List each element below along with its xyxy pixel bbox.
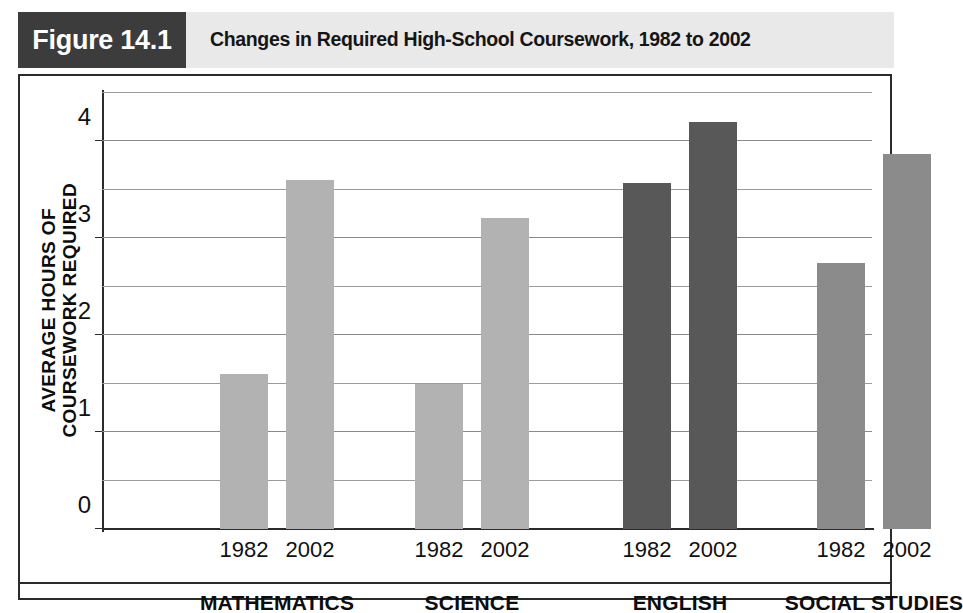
figure-title-box: Changes in Required High-School Coursewo…	[186, 12, 894, 68]
y-tick-label-2: 2	[78, 299, 91, 323]
year-label-mathematics-2002: 2002	[286, 539, 335, 561]
year-label-science-1982: 1982	[415, 539, 464, 561]
bar-mathematics-1982	[220, 374, 268, 529]
y-tick-label-3: 3	[78, 202, 91, 226]
y-axis-title-text: AVERAGE HOURS OF COURSEWORK REQUIRED	[38, 183, 81, 438]
figure-number-box: Figure 14.1	[18, 12, 186, 68]
year-label-mathematics-1982: 1982	[220, 539, 269, 561]
category-label-social-studies: SOCIAL STUDIES	[785, 592, 963, 613]
y-tick-mark-0	[95, 528, 102, 529]
chart-frame: AVERAGE HOURS OF COURSEWORK REQUIRED 012…	[18, 74, 892, 600]
figure-header: Figure 14.1 Changes in Required High-Sch…	[18, 12, 894, 68]
category-label-science: SCIENCE	[425, 592, 520, 613]
bar-english-1982	[623, 183, 671, 529]
figure-number-label: Figure 14.1	[32, 27, 171, 54]
bar-social-studies-1982	[817, 263, 865, 529]
y-tick-mark-4	[95, 140, 102, 141]
category-divider	[20, 582, 890, 584]
category-label-english: ENGLISH	[633, 592, 728, 613]
y-tick-mark-3	[95, 237, 102, 238]
gridline-3-5	[102, 189, 872, 190]
gridline-4	[102, 140, 872, 141]
y-tick-label-1: 1	[78, 396, 91, 420]
category-label-mathematics: MATHEMATICS	[200, 592, 354, 613]
y-tick-mark-2	[95, 334, 102, 335]
year-label-english-1982: 1982	[623, 539, 672, 561]
y-tick-label-4: 4	[78, 105, 91, 129]
year-label-science-2002: 2002	[481, 539, 530, 561]
bar-english-2002	[689, 122, 737, 529]
year-label-social-studies-1982: 1982	[817, 539, 866, 561]
gridline-4-5	[102, 92, 872, 93]
year-label-english-2002: 2002	[689, 539, 738, 561]
bar-science-2002	[481, 218, 529, 529]
bar-science-1982	[415, 384, 463, 529]
year-label-social-studies-2002: 2002	[883, 539, 932, 561]
bar-social-studies-2002	[883, 154, 931, 529]
y-tick-mark-1	[95, 431, 102, 432]
y-axis-title-line-1: AVERAGE HOURS OF	[38, 183, 59, 438]
bar-mathematics-2002	[286, 180, 334, 529]
y-tick-label-0: 0	[78, 493, 91, 517]
plot-area: 01234	[102, 93, 872, 529]
figure-title-label: Changes in Required High-School Coursewo…	[210, 30, 751, 50]
